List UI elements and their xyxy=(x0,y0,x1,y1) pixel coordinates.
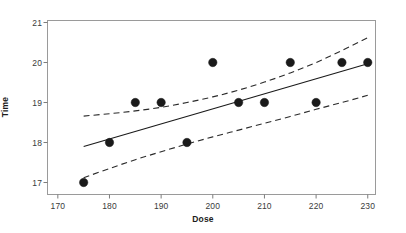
x-tick-label-210: 210 xyxy=(257,201,271,211)
y-tick-label-19: 19 xyxy=(14,98,42,108)
x-axis-tick-marks xyxy=(58,195,368,199)
plot-frame xyxy=(48,21,376,195)
y-axis-tick-marks xyxy=(44,23,48,183)
data-point xyxy=(234,98,242,106)
data-point xyxy=(286,58,294,66)
data-point xyxy=(131,98,139,106)
y-tick-label-21: 21 xyxy=(14,18,42,28)
y-tick-label-17: 17 xyxy=(14,178,42,188)
y-axis-title: Time xyxy=(0,97,10,118)
y-tick-label-20: 20 xyxy=(14,58,42,68)
data-point xyxy=(364,58,372,66)
data-point xyxy=(157,98,165,106)
data-point xyxy=(209,58,217,66)
x-tick-label-190: 190 xyxy=(154,201,168,211)
x-axis-title: Dose xyxy=(0,214,406,224)
data-point xyxy=(338,58,346,66)
data-point xyxy=(79,178,87,186)
plot-canvas xyxy=(0,0,406,233)
x-tick-label-180: 180 xyxy=(102,201,116,211)
x-tick-label-170: 170 xyxy=(51,201,65,211)
data-point xyxy=(183,138,191,146)
data-point xyxy=(260,98,268,106)
x-tick-label-200: 200 xyxy=(206,201,220,211)
y-tick-label-18: 18 xyxy=(14,138,42,148)
data-point xyxy=(105,138,113,146)
data-point xyxy=(312,98,320,106)
scatter-plot-figure: 1718192021 170180190200210220230 Time Do… xyxy=(0,0,406,233)
x-tick-label-220: 220 xyxy=(309,201,323,211)
x-tick-label-230: 230 xyxy=(361,201,375,211)
